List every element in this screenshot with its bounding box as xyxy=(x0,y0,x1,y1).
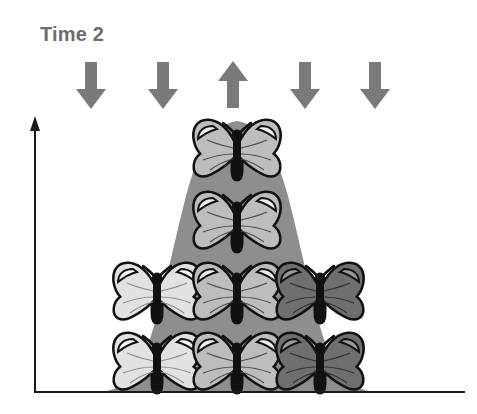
butterfly-r3-c1 xyxy=(111,261,203,327)
figure-canvas: Time 2 xyxy=(0,0,477,414)
butterfly-r3-c3 xyxy=(274,261,366,327)
butterfly-r3-c2 xyxy=(191,261,283,327)
arrow-down-icon-1 xyxy=(74,62,108,110)
butterfly-r4-c2 xyxy=(191,331,283,397)
arrow-down-icon-2 xyxy=(146,62,180,110)
butterfly-r2-c1 xyxy=(191,190,283,256)
arrow-down-icon-4 xyxy=(288,62,322,110)
butterfly-r4-c3 xyxy=(274,331,366,397)
arrow-down-icon-5 xyxy=(358,62,392,110)
butterfly-r1-c1 xyxy=(191,118,283,184)
butterfly-r4-c1 xyxy=(111,331,203,397)
arrow-up-icon-3 xyxy=(216,60,250,108)
